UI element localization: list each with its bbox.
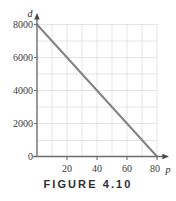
demand-curve-chart: 8000 6000 4000 2000 0 20 40 60 80 d p <box>0 0 176 201</box>
x-tick-label-80: 80 <box>150 163 160 174</box>
y-axis-variable-label: d <box>28 8 34 19</box>
y-axis-arrow-icon <box>34 13 40 20</box>
x-tick-label-20: 20 <box>62 163 72 174</box>
y-tick-label-8000: 8000 <box>13 19 33 30</box>
x-tick-label-60: 60 <box>122 163 132 174</box>
x-tick-label-40: 40 <box>92 163 102 174</box>
figure-container: 8000 6000 4000 2000 0 20 40 60 80 d p FI… <box>0 0 176 201</box>
y-tick-label-6000: 6000 <box>13 52 33 63</box>
y-tick-label-4000: 4000 <box>13 85 33 96</box>
x-axis-arrow-icon <box>162 154 169 160</box>
vertical-gridlines <box>52 24 157 156</box>
figure-caption: FIGURE 4.10 <box>0 178 176 190</box>
x-axis-variable-label: p <box>165 164 171 175</box>
y-tick-label-0: 0 <box>28 151 33 162</box>
y-tick-label-2000: 2000 <box>13 118 33 129</box>
